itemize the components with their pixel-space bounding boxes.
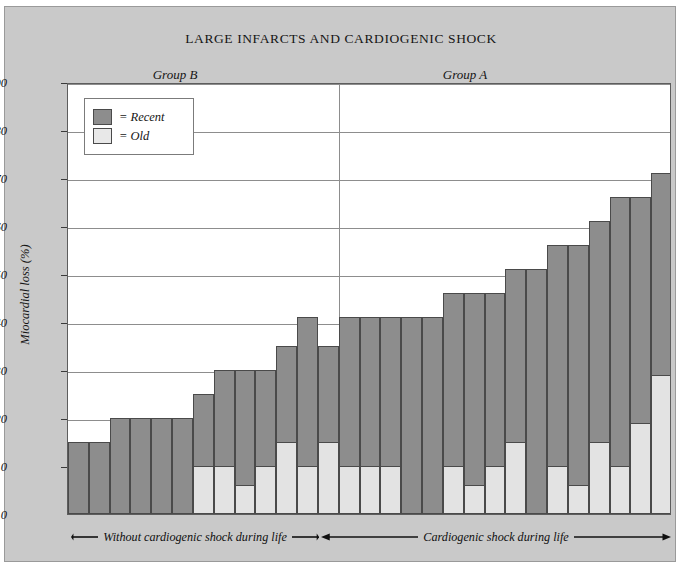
bar-old-segment	[547, 466, 568, 514]
bar-recent-segment	[130, 418, 151, 514]
bar-5	[151, 418, 172, 514]
left-arrow-line-start	[71, 532, 98, 542]
right-arrow-line-start	[321, 532, 418, 542]
y-tick-label-50: 50	[0, 268, 7, 283]
bar-24	[547, 245, 568, 514]
group-label-b: Group B	[105, 67, 245, 83]
bar-9	[235, 370, 256, 514]
right-arrow-icon	[574, 532, 671, 542]
bar-old-segment	[443, 466, 464, 514]
legend-label-recent: = Recent	[119, 110, 165, 125]
bar-17	[401, 317, 422, 514]
annotation-without-shock: Without cardiogenic shock during life	[71, 527, 319, 547]
legend-item-old: = Old	[93, 128, 184, 144]
bar-recent-segment	[422, 317, 443, 514]
group-label-a: Group A	[385, 67, 545, 83]
gridline-70	[68, 180, 670, 181]
bar-recent-segment	[68, 442, 89, 514]
bar-20	[464, 293, 485, 514]
bar-recent-segment	[568, 245, 589, 514]
bar-old-segment	[297, 466, 318, 514]
bar-22	[505, 269, 526, 514]
bar-old-segment	[505, 442, 526, 514]
y-tick-label-90: 90	[0, 76, 7, 91]
bar-4	[130, 418, 151, 514]
bar-3	[110, 418, 131, 514]
bar-old-segment	[568, 485, 589, 514]
y-tick-label-40: 40	[0, 316, 7, 331]
bar-18	[422, 317, 443, 514]
figure-panel: LARGE INFARCTS AND CARDIOGENIC SHOCK Gro…	[4, 6, 676, 562]
bar-old-segment	[589, 442, 610, 514]
bar-14	[339, 317, 360, 514]
y-tick-label-20: 20	[0, 412, 7, 427]
bar-recent-segment	[526, 269, 547, 514]
bar-old-segment	[318, 442, 339, 514]
bar-29	[651, 173, 670, 514]
y-tick-label-70: 70	[0, 172, 7, 187]
bar-old-segment	[360, 466, 381, 514]
y-axis-label: Miocardial loss (%)	[18, 155, 33, 435]
bar-recent-segment	[464, 293, 485, 514]
bar-27	[610, 197, 631, 514]
bar-7	[193, 394, 214, 514]
legend-label-old: = Old	[119, 129, 149, 144]
bar-2	[89, 442, 110, 514]
y-tick-label-80: 80	[0, 124, 7, 139]
bar-old-segment	[255, 466, 276, 514]
bar-12	[297, 317, 318, 514]
y-tick-label-30: 30	[0, 364, 7, 379]
left-arrow-icon	[321, 532, 418, 542]
left-arrow-line-end	[292, 532, 319, 542]
bar-recent-segment	[172, 418, 193, 514]
annotation-left-label: Without cardiogenic shock during life	[98, 530, 292, 545]
legend-item-recent: = Recent	[93, 109, 184, 125]
bar-13	[318, 346, 339, 514]
y-tick-label-10: 10	[0, 460, 7, 475]
bar-25	[568, 245, 589, 514]
annotation-with-shock: Cardiogenic shock during life	[321, 527, 671, 547]
plot-area: = Recent = Old	[67, 83, 671, 515]
chart-title: LARGE INFARCTS AND CARDIOGENIC SHOCK	[5, 31, 677, 47]
y-tick-label-60: 60	[0, 220, 7, 235]
bar-old-segment	[235, 485, 256, 514]
bar-old-segment	[339, 466, 360, 514]
bar-26	[589, 221, 610, 514]
bar-old-segment	[276, 442, 297, 514]
bar-16	[380, 317, 401, 514]
bar-11	[276, 346, 297, 514]
bar-old-segment	[630, 423, 651, 514]
annotation-right-label: Cardiogenic shock during life	[418, 530, 573, 545]
legend: = Recent = Old	[84, 98, 194, 155]
bar-21	[485, 293, 506, 514]
bar-recent-segment	[110, 418, 131, 514]
bar-15	[360, 317, 381, 514]
bar-8	[214, 370, 235, 514]
right-arrow-line-end	[574, 532, 671, 542]
bar-recent-segment	[151, 418, 172, 514]
bar-old-segment	[485, 466, 506, 514]
gridline-60	[68, 228, 670, 229]
bar-old-segment	[380, 466, 401, 514]
left-arrow-icon	[71, 532, 98, 542]
bar-23	[526, 269, 547, 514]
bar-old-segment	[464, 485, 485, 514]
old-swatch-icon	[93, 128, 112, 144]
bar-10	[255, 370, 276, 514]
bar-28	[630, 197, 651, 514]
bar-old-segment	[214, 466, 235, 514]
bar-recent-segment	[401, 317, 422, 514]
right-arrow-icon	[292, 532, 319, 542]
bar-19	[443, 293, 464, 514]
bar-old-segment	[651, 375, 670, 514]
bar-6	[172, 418, 193, 514]
y-tick-label-0: 0	[0, 508, 7, 523]
recent-swatch-icon	[93, 109, 112, 125]
bar-recent-segment	[89, 442, 110, 514]
bar-old-segment	[610, 466, 631, 514]
bar-1	[68, 442, 89, 514]
bar-old-segment	[193, 466, 214, 514]
gridline-90	[68, 84, 670, 85]
